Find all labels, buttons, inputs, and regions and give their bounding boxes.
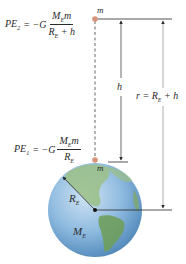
- mass-bottom-label: m: [97, 164, 104, 173]
- r-label: r = RE + h: [135, 91, 179, 103]
- pe2-lhs: PE2: [5, 18, 20, 31]
- mass-top-label: m: [97, 6, 104, 15]
- pe2-equation: PE2 = −G MEm RE + h: [5, 10, 75, 39]
- earth-mass-label: ME: [73, 226, 86, 239]
- height-label: h: [117, 82, 122, 92]
- pe1-equation: PE1 = −G MEm RE: [14, 135, 81, 164]
- pe1-lhs: PE1: [14, 143, 29, 156]
- mass-top-dot: [92, 16, 98, 22]
- mass-bottom-dot: [92, 157, 98, 163]
- diagram-canvas: [0, 0, 186, 264]
- pe2-fraction: MEm RE + h: [48, 10, 75, 39]
- pe1-fraction: MEm RE: [57, 135, 80, 164]
- earth-radius-label: RE: [69, 193, 79, 206]
- pe1-eq-sign: = −G: [32, 144, 55, 155]
- pe2-eq-sign: = −G: [23, 19, 46, 30]
- earth-center-dot: [93, 208, 97, 212]
